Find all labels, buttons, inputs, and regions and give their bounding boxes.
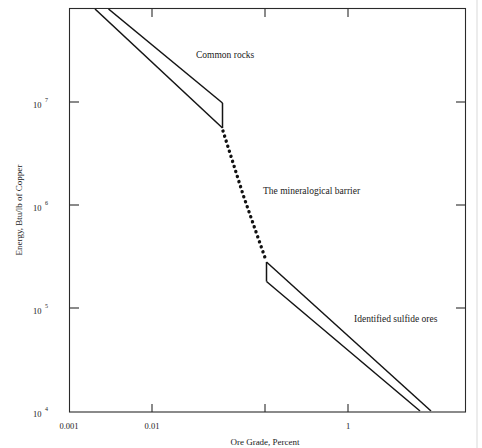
figure-container: 10 7 10 6 10 5 10 4 0.001 0.01 1 Ore Gra… — [0, 0, 482, 448]
x-axis-title: Ore Grade, Percent — [230, 437, 300, 447]
y-tick-base-1e5: 10 — [33, 306, 42, 316]
y-tick-exponent-1e4: 4 — [45, 406, 48, 412]
y-tick-exponent-1e7: 7 — [45, 97, 48, 103]
y-axis-title: Energy, Btu/lb of Copper — [14, 165, 24, 256]
chart-background — [0, 0, 482, 448]
y-tick-base-1e6: 10 — [33, 203, 42, 213]
y-tick-exponent-1e6: 6 — [45, 200, 48, 206]
annotation-common-rocks: Common rocks — [196, 50, 255, 60]
ore-grade-energy-chart: 10 7 10 6 10 5 10 4 0.001 0.01 1 Ore Gra… — [0, 0, 482, 448]
y-tick-exponent-1e5: 5 — [45, 303, 48, 309]
x-tick-label-0.001: 0.001 — [59, 421, 78, 431]
x-tick-label-0.01: 0.01 — [145, 421, 160, 431]
y-tick-base-1e4: 10 — [33, 409, 42, 419]
x-tick-label-1: 1 — [346, 421, 350, 431]
annotation-mineralogical-barrier: The mineralogical barrier — [263, 186, 361, 196]
annotation-identified-sulfide-ores: Identified sulfide ores — [354, 314, 438, 324]
y-tick-base-1e7: 10 — [33, 100, 42, 110]
